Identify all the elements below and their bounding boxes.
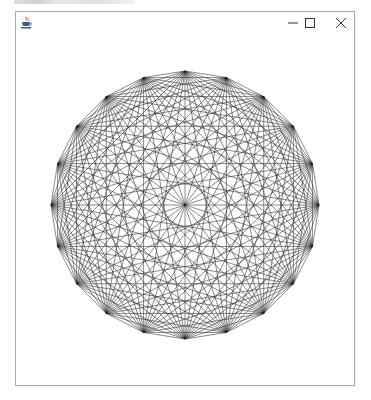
drawing-canvas <box>16 34 354 385</box>
graph-edge <box>58 97 107 164</box>
graph-edge <box>51 71 185 205</box>
graph-edge <box>58 246 144 332</box>
graph-edge <box>106 97 226 333</box>
graph-edge <box>51 205 185 339</box>
graph-edge <box>77 126 313 246</box>
graph-edge <box>58 246 107 313</box>
graph-edge <box>144 78 185 339</box>
graph-edge <box>264 284 294 314</box>
graph-edge <box>226 78 312 164</box>
graph-edge <box>58 164 227 333</box>
graph-edge <box>58 78 144 164</box>
graph-edge <box>77 78 144 127</box>
graph-edge <box>106 97 293 284</box>
graph-edge <box>226 246 312 332</box>
graph-edge <box>144 78 313 247</box>
graph-edge <box>264 97 294 127</box>
complete-graph-drawing <box>1 1 371 400</box>
graph-edge <box>77 284 144 333</box>
graph-edge <box>77 284 107 314</box>
graph-edge <box>77 97 107 127</box>
graph-edge <box>58 97 107 247</box>
app-window <box>15 11 355 386</box>
graph-edge <box>144 78 294 127</box>
graph-edge <box>106 97 185 339</box>
graph-edge <box>144 78 264 314</box>
graph-edge <box>185 71 319 205</box>
graph-edge <box>51 78 144 205</box>
graph-edge <box>185 205 319 339</box>
